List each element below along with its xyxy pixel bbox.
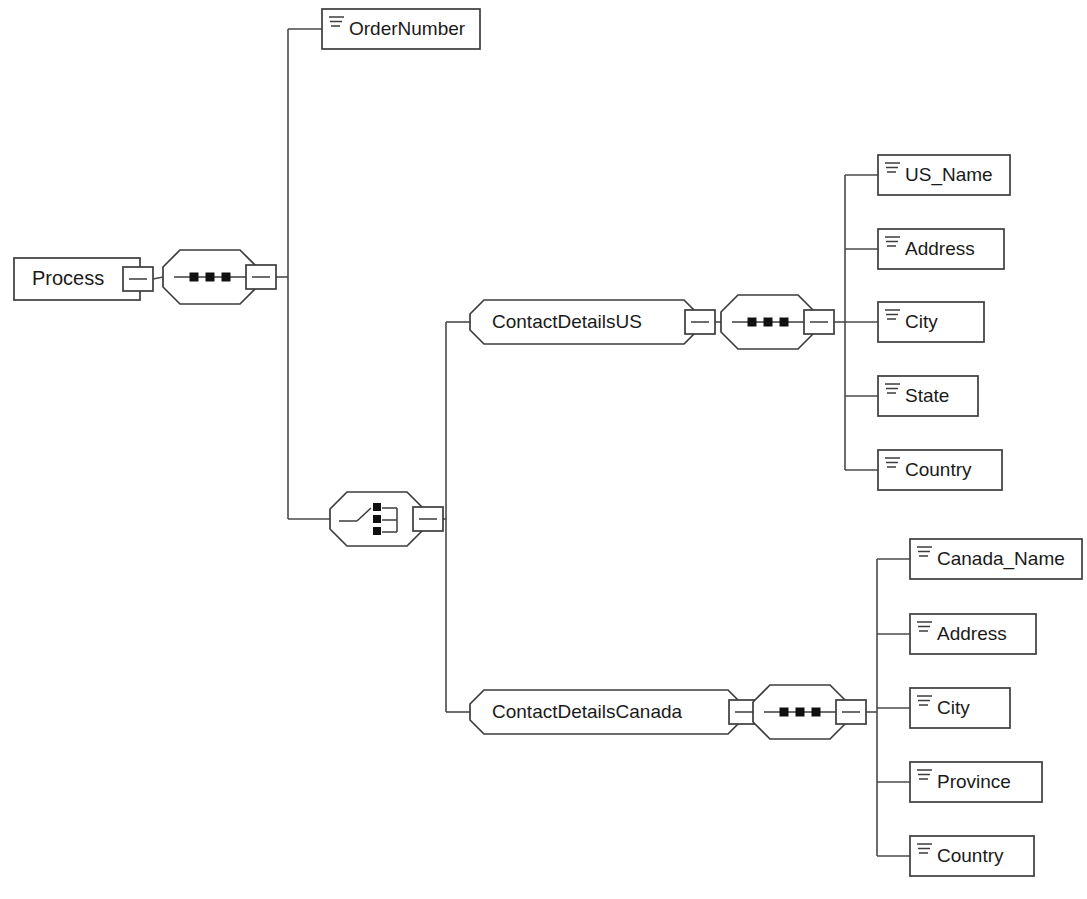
element-label: Province: [937, 771, 1011, 792]
compositor-collapse-button[interactable]: [836, 700, 866, 724]
complex-node-us[interactable]: ContactDetailsUS: [470, 300, 715, 344]
element-node-us-3[interactable]: State: [878, 376, 978, 416]
complex-node-canada[interactable]: ContactDetailsCanada: [470, 690, 759, 734]
canada-sequence-compositor[interactable]: [753, 685, 866, 739]
complex-node-collapse-button[interactable]: [685, 310, 715, 334]
choice-compositor[interactable]: [330, 492, 443, 546]
element-node-us-1[interactable]: Address: [878, 229, 1004, 269]
element-label: OrderNumber: [349, 18, 466, 39]
element-node-canada-2[interactable]: City: [910, 688, 1010, 728]
us-sequence-compositor[interactable]: [721, 295, 834, 349]
root-collapse-button[interactable]: [123, 267, 153, 291]
root-node-label: Process: [32, 267, 104, 289]
element-node-ordernumber[interactable]: OrderNumber: [322, 9, 480, 49]
root-node-process[interactable]: Process: [14, 258, 153, 300]
root-sequence-compositor[interactable]: [163, 250, 276, 304]
compositor-collapse-button[interactable]: [246, 265, 276, 289]
element-label: Country: [905, 459, 972, 480]
element-node-canada-1[interactable]: Address: [910, 614, 1036, 654]
element-label: US_Name: [905, 164, 993, 186]
element-node-us-0[interactable]: US_Name: [878, 155, 1010, 195]
element-label: Address: [937, 623, 1007, 644]
element-node-us-4[interactable]: Country: [878, 450, 1002, 490]
element-label: Address: [905, 238, 975, 259]
element-node-us-2[interactable]: City: [878, 302, 984, 342]
schema-nodes: ProcessOrderNumberContactDetailsUSUS_Nam…: [14, 9, 1082, 876]
element-label: Country: [937, 845, 1004, 866]
element-node-canada-0[interactable]: Canada_Name: [910, 539, 1082, 579]
element-node-canada-3[interactable]: Province: [910, 762, 1042, 802]
element-label: City: [937, 697, 970, 718]
element-label: State: [905, 385, 949, 406]
element-label: City: [905, 311, 938, 332]
element-node-canada-4[interactable]: Country: [910, 836, 1034, 876]
compositor-collapse-button[interactable]: [804, 310, 834, 334]
complex-node-label: ContactDetailsCanada: [492, 701, 683, 722]
compositor-collapse-button[interactable]: [413, 507, 443, 531]
schema-diagram: ProcessOrderNumberContactDetailsUSUS_Nam…: [0, 0, 1087, 899]
element-label: Canada_Name: [937, 548, 1065, 570]
complex-node-label: ContactDetailsUS: [492, 311, 642, 332]
